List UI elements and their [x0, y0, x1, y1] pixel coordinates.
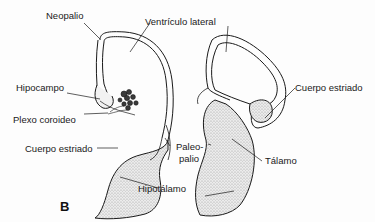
label-cuerpo-estriado-right: Cuerpo estriado — [295, 82, 363, 93]
label-paleopalio-line1: Paleo- — [176, 141, 203, 152]
right-hemisphere — [196, 35, 286, 216]
label-ventriculo-lateral: Ventrículo lateral — [145, 16, 216, 27]
label-neopalio: Neopalio — [46, 10, 84, 21]
label-plexo-coroideo: Plexo coroideo — [13, 114, 76, 125]
label-paleopalio-line2: palio — [179, 153, 199, 164]
label-hipotalamo: Hipotálamo — [138, 183, 186, 194]
label-cuerpo-estriado-left: Cuerpo estriado — [25, 143, 93, 154]
brain-development-diagram: Neopalio Ventrículo lateral Hipocampo Pl… — [0, 0, 375, 222]
panel-label: B — [60, 199, 69, 214]
diagram-drawing — [0, 0, 375, 222]
label-talamo: Tálamo — [265, 155, 297, 166]
label-hipocampo: Hipocampo — [16, 82, 64, 93]
